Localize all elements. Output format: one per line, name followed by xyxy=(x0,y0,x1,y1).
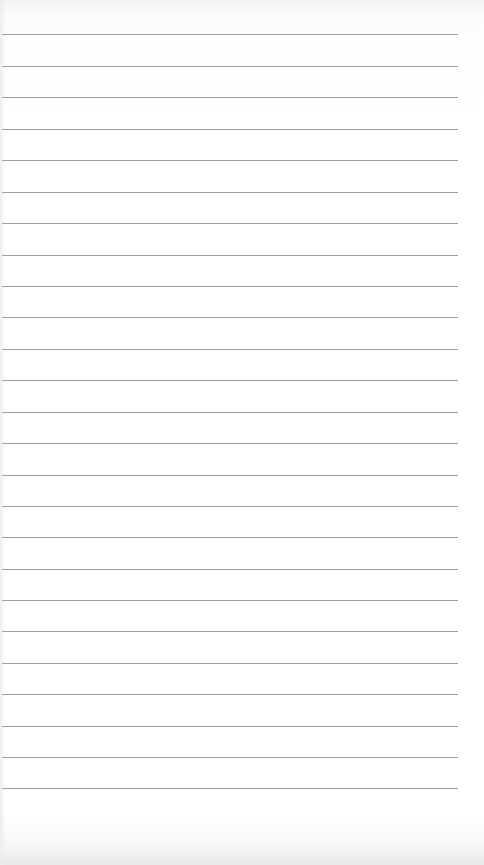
ruled-line xyxy=(2,537,458,538)
ruled-line xyxy=(2,631,458,632)
ruled-line xyxy=(2,569,458,570)
ruled-line xyxy=(2,788,458,789)
ruled-line xyxy=(2,380,458,381)
ruled-line xyxy=(2,726,458,727)
ruled-line xyxy=(2,286,458,287)
ruled-line xyxy=(2,97,458,98)
ruled-line xyxy=(2,66,458,67)
ruled-line xyxy=(2,255,458,256)
ruled-line xyxy=(2,475,458,476)
ruled-line xyxy=(2,757,458,758)
ruled-line xyxy=(2,412,458,413)
ruled-line xyxy=(2,443,458,444)
ruled-line xyxy=(2,349,458,350)
ruled-line xyxy=(2,600,458,601)
ruled-line xyxy=(2,663,458,664)
ruled-line xyxy=(2,694,458,695)
ruled-line xyxy=(2,34,458,35)
ruled-line xyxy=(2,223,458,224)
ruled-line xyxy=(2,317,458,318)
ruled-line xyxy=(2,506,458,507)
ruled-line xyxy=(2,129,458,130)
ruled-line xyxy=(2,160,458,161)
lined-paper-sheet xyxy=(0,0,484,865)
ruled-line xyxy=(2,192,458,193)
